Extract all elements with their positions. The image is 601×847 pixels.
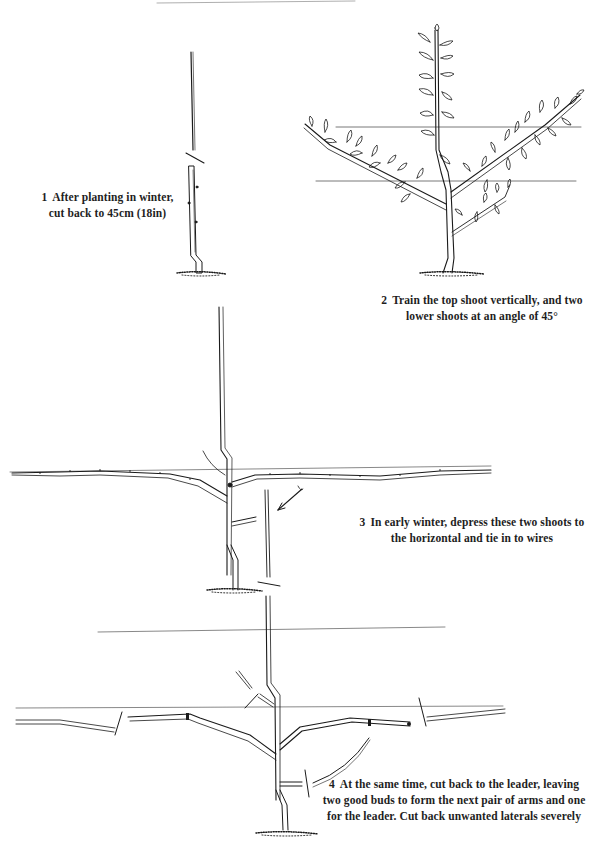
step-3-illustration xyxy=(10,307,491,593)
step-3-caption: 3In early winter, depress these two shoo… xyxy=(352,514,592,546)
caption-line: Train the top shoot vertically, and two xyxy=(392,294,583,306)
caption-line: for the leader. Cut back unwanted latera… xyxy=(319,808,589,824)
cut-mark xyxy=(186,153,204,163)
step-number: 1 xyxy=(41,191,47,203)
caption-line: In early winter, depress these two shoot… xyxy=(370,516,584,528)
step-4-caption: 4At the same time, cut back to the leade… xyxy=(319,776,589,824)
caption-line: two good buds to form the next pair of a… xyxy=(319,792,589,808)
step-1-illustration xyxy=(177,52,226,276)
step-number: 4 xyxy=(329,778,335,790)
caption-line: At the same time, cut back to the leader… xyxy=(340,778,579,790)
top-rule xyxy=(157,1,355,3)
espalier-illustrations xyxy=(0,0,601,847)
step-number: 2 xyxy=(381,294,387,306)
step-1-caption: 1After planting in winter, cut back to 4… xyxy=(25,189,190,221)
step-number: 3 xyxy=(360,516,366,528)
caption-line: the horizontal and tie in to wires xyxy=(352,530,592,546)
upper-wire xyxy=(98,627,445,632)
lower-wire xyxy=(16,706,503,708)
caption-line: cut back to 45cm (18in) xyxy=(25,205,190,221)
caption-line: After planting in winter, xyxy=(52,191,173,203)
step-2-caption: 2Train the top shoot vertically, and two… xyxy=(372,292,592,324)
step-2-illustration xyxy=(304,24,584,276)
caption-line: lower shoots at an angle of 45° xyxy=(372,308,592,324)
